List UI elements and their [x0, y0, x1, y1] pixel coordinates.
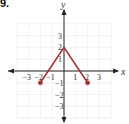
x-axis-right-arrow-icon	[113, 69, 119, 74]
x-tick-label: 3	[97, 73, 101, 82]
x-axis-label: x	[120, 66, 126, 77]
x-tick-label: 1	[73, 73, 77, 82]
y-tick-label: 3	[58, 32, 62, 41]
coordinate-plane-chart: xy −3−2−1123−3−2−1123	[0, 0, 129, 124]
y-axis-label: y	[60, 0, 66, 10]
endpoint-closed-dot	[86, 81, 90, 85]
axes: xy	[8, 0, 126, 123]
endpoint-closed-dot	[38, 81, 42, 85]
y-tick-label: −3	[55, 102, 64, 111]
x-tick-label: −1	[46, 73, 55, 82]
x-tick-label: −3	[23, 73, 32, 82]
y-axis-down-arrow-icon	[62, 117, 67, 123]
y-tick-label: −1	[55, 79, 64, 88]
x-axis-left-arrow-icon	[8, 69, 14, 74]
y-tick-label: −2	[55, 91, 64, 100]
